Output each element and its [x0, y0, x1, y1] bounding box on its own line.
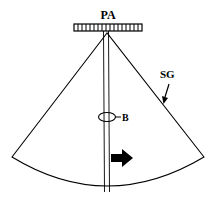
sector-label: SG	[160, 68, 175, 80]
imaging-sector	[12, 33, 204, 186]
bubble-label: B	[122, 112, 129, 123]
needle	[104, 31, 110, 192]
arrow-right-icon	[111, 149, 133, 167]
transducer-label: PA	[100, 8, 115, 22]
ultrasound-sector-diagram: PA B SG	[0, 0, 214, 203]
transducer-array-icon	[74, 24, 142, 31]
sector-pointer-arrow-icon	[162, 84, 169, 104]
bubble-marker	[99, 113, 116, 122]
